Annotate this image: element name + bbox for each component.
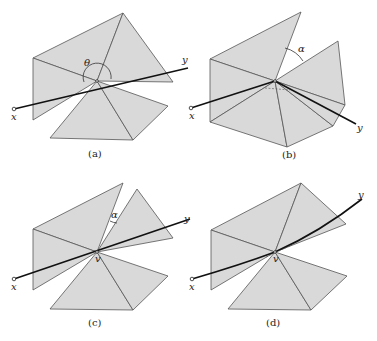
y-label: y: [181, 54, 188, 65]
figure-canvas: θ x y (a) α x y (b) α v x y: [0, 0, 377, 341]
vertex-label: v: [95, 253, 101, 264]
y-label: y: [356, 122, 363, 133]
panel-b: α x y (b): [189, 12, 363, 160]
panel-c: α v x y (c): [11, 183, 190, 328]
y-label: y: [357, 189, 364, 200]
vertex-label: v: [273, 253, 279, 264]
theta-label: θ: [84, 57, 90, 68]
x-label: x: [189, 281, 195, 292]
x-label: x: [11, 111, 17, 122]
vertex-point: [274, 80, 277, 83]
caption-b: (b): [282, 149, 296, 160]
panel-d: v x y (d): [189, 183, 364, 328]
alpha-label: α: [298, 43, 305, 54]
vertex-point: [96, 80, 99, 83]
panel-a: θ x y (a): [11, 13, 188, 159]
x-label: x: [11, 281, 17, 292]
caption-a: (a): [88, 148, 102, 159]
x-label: x: [189, 110, 195, 121]
caption-d: (d): [266, 317, 280, 328]
alpha-label: α: [111, 209, 118, 220]
y-label: y: [183, 213, 190, 224]
caption-c: (c): [88, 317, 102, 328]
